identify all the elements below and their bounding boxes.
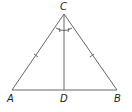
angle-tick-left	[59, 28, 60, 32]
side-bc	[64, 14, 117, 90]
label-c: C	[60, 1, 67, 12]
label-d: D	[60, 93, 68, 104]
label-b: B	[114, 93, 121, 104]
angle-tick-right	[68, 28, 69, 32]
triangle-diagram: C A D B	[0, 0, 132, 112]
label-a: A	[6, 93, 14, 104]
side-ac	[12, 14, 64, 90]
